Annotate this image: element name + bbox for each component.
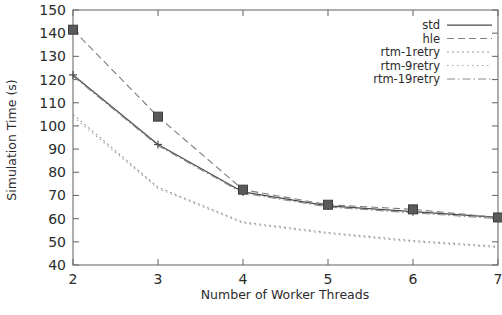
x-tick-label-3: 3	[154, 271, 163, 287]
y-tick-label-150: 150	[39, 2, 66, 18]
x-axis-title: Number of Worker Threads	[201, 287, 369, 302]
data-point-hle-x5	[324, 200, 333, 209]
y-tick-label-140: 140	[39, 25, 66, 41]
x-tick-label-6: 6	[409, 271, 418, 287]
chart-container: 405060708090100110120130140150 234567 Nu…	[0, 0, 502, 315]
simulation-time-line-chart: 405060708090100110120130140150 234567 Nu…	[0, 0, 502, 315]
legend-label-rtm-9retry: rtm-9retry	[381, 59, 441, 73]
y-axis-title: Simulation Time (s)	[4, 79, 19, 200]
legend-label-rtm-1retry: rtm-1retry	[381, 45, 441, 59]
x-tick-label-2: 2	[69, 271, 78, 287]
data-point-hle-x7	[494, 213, 502, 222]
y-tick-label-110: 110	[39, 95, 66, 111]
y-tick-label-120: 120	[39, 72, 66, 88]
x-tick-label-4: 4	[239, 271, 248, 287]
x-tick-label-7: 7	[494, 271, 502, 287]
y-tick-label-40: 40	[48, 257, 66, 273]
data-point-hle-x3	[154, 112, 163, 121]
data-point-hle-x6	[409, 205, 418, 214]
y-tick-label-90: 90	[48, 141, 66, 157]
x-axis-tick-labels: 234567	[69, 271, 502, 287]
y-tick-label-100: 100	[39, 118, 66, 134]
legend-label-std: std	[422, 18, 440, 32]
y-tick-label-80: 80	[48, 164, 66, 180]
series-line-rtm-1retry	[73, 114, 498, 246]
y-axis-tick-labels: 405060708090100110120130140150	[39, 2, 66, 273]
legend-label-rtm-19retry: rtm-19retry	[373, 72, 440, 86]
y-tick-label-130: 130	[39, 48, 66, 64]
y-tick-label-60: 60	[48, 211, 66, 227]
y-tick-label-50: 50	[48, 234, 66, 250]
chart-legend: stdhlertm-1retryrtm-9retryrtm-19retry	[373, 18, 492, 86]
series-line-rtm-9retry	[73, 117, 498, 248]
series-line-std	[73, 75, 498, 218]
y-tick-label-70: 70	[48, 187, 66, 203]
legend-label-hle: hle	[422, 32, 440, 46]
data-point-hle-x4	[239, 185, 248, 194]
data-point-hle-x2	[69, 25, 78, 34]
x-tick-label-5: 5	[324, 271, 333, 287]
